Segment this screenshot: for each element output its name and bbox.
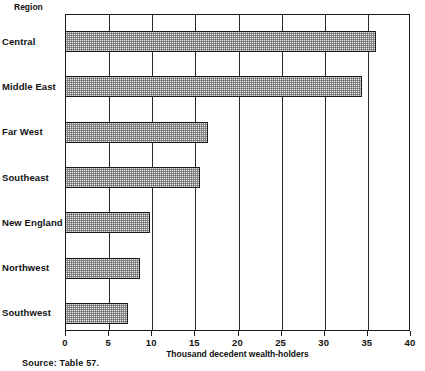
x-axis-tick-label: 30 bbox=[309, 337, 339, 348]
bar bbox=[65, 258, 140, 279]
x-axis-tick-label: 35 bbox=[352, 337, 382, 348]
x-axis-tick-mark bbox=[281, 331, 282, 336]
y-axis-tick-label: Central bbox=[2, 36, 62, 47]
x-axis-tick-mark bbox=[194, 331, 195, 336]
bar bbox=[65, 76, 362, 97]
gridline bbox=[325, 15, 326, 330]
bar bbox=[65, 31, 376, 52]
bar bbox=[65, 303, 128, 324]
y-axis-tick-label: New England bbox=[2, 217, 62, 228]
y-axis-tick-label: Southwest bbox=[2, 307, 62, 318]
bar-chart: Region Thousand decedent wealth-holders … bbox=[0, 0, 425, 371]
y-axis-tick-label: Middle East bbox=[2, 81, 62, 92]
x-axis-tick-mark bbox=[151, 331, 152, 336]
y-axis-tick-label: Northwest bbox=[2, 262, 62, 273]
x-axis-tick-label: 15 bbox=[179, 337, 209, 348]
x-axis-tick-label: 0 bbox=[50, 337, 80, 348]
y-axis-tick-label: Far West bbox=[2, 126, 62, 137]
gridline bbox=[368, 15, 369, 330]
bar bbox=[65, 122, 208, 143]
x-axis-title: Thousand decedent wealth-holders bbox=[65, 349, 410, 359]
x-axis-tick-mark bbox=[108, 331, 109, 336]
x-axis-tick-mark bbox=[65, 331, 66, 336]
x-axis-tick-label: 20 bbox=[223, 337, 253, 348]
gridline bbox=[282, 15, 283, 330]
x-axis-tick-label: 40 bbox=[395, 337, 425, 348]
x-axis-tick-mark bbox=[410, 331, 411, 336]
bar bbox=[65, 167, 200, 188]
y-axis-title: Region bbox=[14, 2, 43, 12]
source-note: Source: Table 57. bbox=[22, 358, 99, 368]
x-axis-tick-label: 25 bbox=[266, 337, 296, 348]
y-axis-tick-label: Southeast bbox=[2, 172, 62, 183]
x-axis-tick-label: 5 bbox=[93, 337, 123, 348]
x-axis-tick-mark bbox=[367, 331, 368, 336]
bar bbox=[65, 212, 150, 233]
x-axis-tick-mark bbox=[324, 331, 325, 336]
gridline bbox=[239, 15, 240, 330]
x-axis-tick-label: 10 bbox=[136, 337, 166, 348]
x-axis-tick-mark bbox=[238, 331, 239, 336]
